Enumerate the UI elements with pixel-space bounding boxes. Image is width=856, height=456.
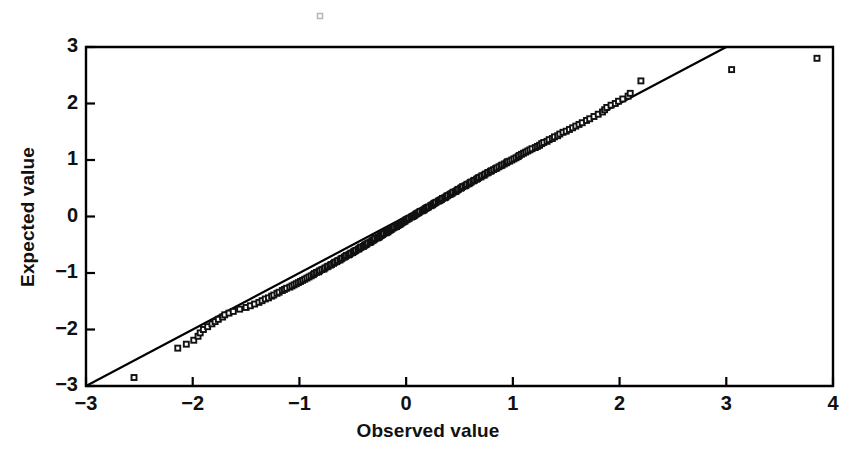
x-axis-ticks <box>86 377 833 386</box>
x-tick-label: 0 <box>386 392 426 415</box>
scatter-point <box>231 309 236 314</box>
scatter-point <box>628 91 633 96</box>
scatter-point <box>132 375 137 380</box>
y-axis-ticks <box>86 47 95 386</box>
scatter-point <box>175 346 180 351</box>
x-tick-label: −2 <box>173 392 213 415</box>
y-tick-label: 3 <box>38 34 78 57</box>
scan-speck <box>318 14 323 19</box>
scatter-point <box>638 78 643 83</box>
scatter-point <box>729 67 734 72</box>
scan-artifacts <box>318 14 323 19</box>
y-tick-label: 2 <box>38 91 78 114</box>
qq-plot-figure: Observed value Expected value −3−2−10123… <box>0 0 856 456</box>
x-tick-label: −1 <box>279 392 319 415</box>
scatter-point <box>814 56 819 61</box>
x-axis-title: Observed value <box>0 420 856 442</box>
x-tick-label: 2 <box>600 392 640 415</box>
scatter-point <box>237 307 242 312</box>
y-tick-label: 0 <box>38 204 78 227</box>
scatter-points <box>132 56 820 380</box>
x-tick-label: 3 <box>706 392 746 415</box>
y-tick-label: −3 <box>38 373 78 396</box>
plot-canvas <box>0 0 856 456</box>
y-tick-label: −2 <box>38 317 78 340</box>
scatter-point <box>184 342 189 347</box>
x-tick-label: 4 <box>813 392 853 415</box>
y-tick-label: 1 <box>38 147 78 170</box>
x-tick-label: 1 <box>493 392 533 415</box>
y-tick-label: −1 <box>38 260 78 283</box>
scatter-point <box>620 96 625 101</box>
